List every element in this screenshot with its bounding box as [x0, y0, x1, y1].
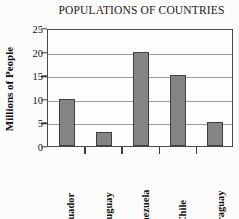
x-axis-tick-label-text: Ecuador [66, 193, 77, 219]
y-axis-tick-label: 25 [17, 24, 43, 35]
x-axis-tick-label: Uruguay [96, 154, 110, 218]
bar-venezuela [133, 52, 149, 146]
x-axis-tick-label: Chile [170, 154, 184, 218]
bar-chile [170, 75, 186, 146]
y-axis-tick-label: 5 [17, 118, 43, 129]
y-axis-tick-labels: 0510152025 [14, 29, 43, 147]
y-axis-tick-label: 10 [17, 94, 43, 105]
x-axis-tick-label-text: Paraguay [214, 190, 225, 219]
y-axis-tick-label: 20 [17, 47, 43, 58]
x-axis-tick-mark [196, 147, 197, 154]
bar-uruguay [96, 132, 112, 146]
bars-group [48, 30, 232, 146]
y-axis-tick-label: 0 [17, 142, 43, 153]
x-axis-tick-label-text: Chile [177, 200, 188, 219]
x-axis-tick-label: Paraguay [207, 154, 221, 218]
x-axis-tick-label-text: Uruguay [103, 192, 114, 219]
bar-chart-figure: POPULATIONS OF COUNTRIES Millions of Peo… [0, 0, 239, 219]
x-axis-tick-label-text: Venezuela [140, 189, 151, 219]
bar-ecuador [59, 99, 75, 146]
x-axis-tick-label: Ecuador [59, 154, 73, 218]
x-axis-tick-label: Venezuela [133, 154, 147, 218]
x-axis-tick-labels: EcuadorUruguayVenezuelaChileParaguay [47, 154, 233, 218]
y-axis-tick-label: 15 [17, 71, 43, 82]
x-axis-tick-mark [121, 147, 122, 154]
x-axis-tick-marks [47, 147, 233, 154]
plot-area [47, 29, 233, 147]
x-axis-tick-mark [159, 147, 160, 154]
bar-paraguay [207, 122, 223, 146]
x-axis-tick-mark [84, 147, 85, 154]
chart-title: POPULATIONS OF COUNTRIES [44, 4, 239, 16]
